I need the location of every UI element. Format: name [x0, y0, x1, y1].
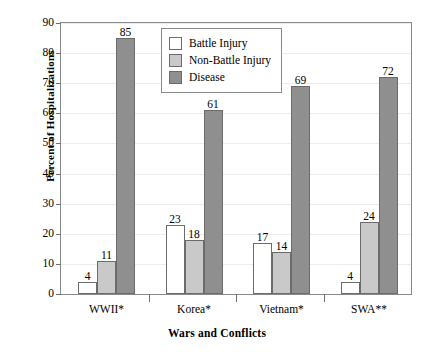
bar: 85: [116, 38, 135, 294]
bar: 4: [78, 282, 97, 294]
y-axis-tick-label: 0: [48, 288, 54, 300]
legend-label: Disease: [189, 72, 225, 84]
y-axis-tick: [56, 113, 61, 114]
gridline: [61, 23, 411, 24]
x-axis-title: Wars and Conflicts: [0, 327, 434, 339]
gridline: [61, 174, 411, 175]
bar-value-label: 17: [257, 231, 269, 243]
legend-item: Disease: [169, 69, 271, 86]
bar-value-label: 11: [101, 249, 112, 261]
bar: 4: [341, 282, 360, 294]
y-axis-tick: [56, 204, 61, 205]
bar-value-label: 24: [363, 210, 375, 222]
y-axis-tick-label: 40: [43, 168, 55, 180]
y-axis-tick: [56, 53, 61, 54]
legend-label: Non-Battle Injury: [189, 55, 271, 67]
gridline: [61, 113, 411, 114]
y-axis-tick-label: 70: [43, 77, 55, 89]
legend-label: Battle Injury: [189, 38, 247, 50]
bar-value-label: 18: [188, 228, 200, 240]
y-axis-tick: [56, 174, 61, 175]
y-axis-tick: [56, 234, 61, 235]
x-axis-tick: [324, 294, 325, 302]
x-axis-tick-label: Korea*: [177, 303, 211, 315]
x-axis-tick-label: SWA**: [351, 303, 387, 315]
bar-value-label: 4: [85, 270, 91, 282]
bar: 17: [253, 243, 272, 294]
gridline: [61, 234, 411, 235]
bar: 61: [204, 110, 223, 294]
y-axis-tick-label: 50: [43, 138, 55, 150]
bar-value-label: 4: [347, 270, 353, 282]
y-axis-tick: [56, 264, 61, 265]
bar-value-label: 23: [169, 213, 181, 225]
bar-value-label: 61: [207, 98, 219, 110]
y-axis-tick-label: 20: [43, 228, 55, 240]
bar-value-label: 69: [295, 74, 307, 86]
y-axis-tick: [56, 83, 61, 84]
bar: 18: [185, 240, 204, 294]
y-axis-tick: [56, 294, 61, 295]
bar-value-label: 14: [276, 240, 288, 252]
legend-swatch-icon: [169, 71, 182, 84]
y-axis-tick-label: 90: [43, 17, 55, 29]
x-axis-tick-label: WWII*: [89, 303, 124, 315]
y-axis-tick-label: 80: [43, 47, 55, 59]
y-axis-tick-label: 30: [43, 198, 55, 210]
legend-item: Non-Battle Injury: [169, 52, 271, 69]
chart-legend: Battle Injury Non-Battle Injury Disease: [161, 28, 282, 93]
gridline: [61, 204, 411, 205]
bar-value-label: 72: [382, 65, 394, 77]
y-axis-tick-label: 10: [43, 258, 55, 270]
legend-swatch-icon: [169, 54, 182, 67]
y-axis-tick-label: 60: [43, 108, 55, 120]
x-axis-tick: [149, 294, 150, 302]
bar: 23: [166, 225, 185, 294]
y-axis-tick: [56, 143, 61, 144]
x-axis-tick-label: Vietnam*: [259, 303, 304, 315]
bar: 11: [97, 261, 116, 294]
chart-figure: Percent of Hospitalizations 010203040506…: [0, 0, 434, 352]
legend-swatch-icon: [169, 37, 182, 50]
y-axis-tick: [56, 23, 61, 24]
bar: 72: [379, 77, 398, 294]
bar-value-label: 85: [120, 26, 132, 38]
bar: 24: [360, 222, 379, 294]
legend-item: Battle Injury: [169, 35, 271, 52]
bar: 69: [291, 86, 310, 294]
x-axis-tick: [236, 294, 237, 302]
gridline: [61, 143, 411, 144]
bar: 14: [272, 252, 291, 294]
